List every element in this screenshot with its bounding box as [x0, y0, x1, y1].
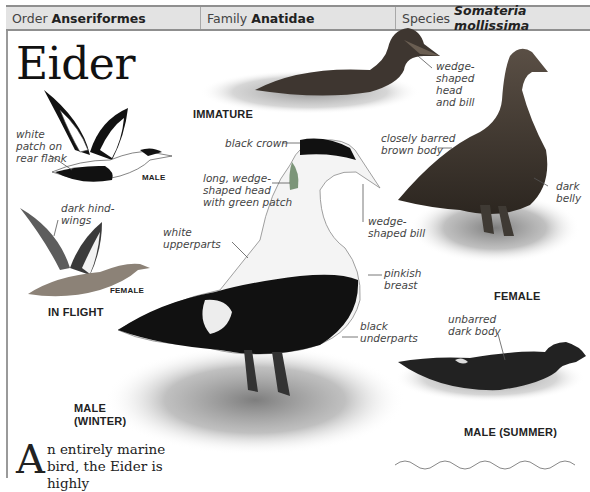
annotation-pinkish-breast: pinkish breast — [384, 267, 421, 291]
flying-female-label: FEMALE — [110, 286, 144, 295]
annotation-line: wings — [61, 214, 115, 226]
annotation-line: shaped — [436, 72, 475, 84]
drop-cap: A — [16, 442, 45, 476]
annotation-white-patch: white patch on rear flank — [16, 128, 67, 164]
annotation-line: long, wedge- — [203, 172, 292, 184]
annotation-line: belly — [556, 192, 581, 204]
annotation-black-crown: black crown — [225, 137, 288, 149]
in-flight-caption: IN FLIGHT — [48, 306, 104, 318]
annotation-line: wedge- — [368, 215, 425, 227]
flying-male-label: MALE — [142, 173, 165, 182]
annotation-line: upperparts — [163, 238, 221, 250]
immature-eider-figure — [200, 28, 440, 114]
annotation-line: black — [360, 320, 418, 332]
annotation-line: dark hind- — [61, 202, 115, 214]
annotation-line: shaped bill — [368, 227, 425, 239]
male-winter-caption-2: (WINTER) — [74, 415, 126, 427]
annotation-line: brown body — [381, 144, 455, 156]
annotation-line: head — [436, 84, 475, 96]
annotation-line: pinkish — [384, 267, 421, 279]
annotation-line: unbarred — [448, 313, 501, 325]
annotation-line: underparts — [360, 332, 418, 344]
annotation-line: wedge- — [436, 60, 475, 72]
annotation-line: shaped head — [203, 184, 292, 196]
annotation-line: white — [163, 226, 221, 238]
annotation-black-underparts: black underparts — [360, 320, 418, 344]
annotation-line: closely barred — [381, 132, 455, 144]
annotation-wedge-bill: wedge- shaped bill — [368, 215, 425, 239]
annotation-long-wedge-head: long, wedge- shaped head with green patc… — [203, 172, 292, 208]
annotation-unbarred-body: unbarred dark body — [448, 313, 501, 337]
annotation-white-upperparts: white upperparts — [163, 226, 221, 250]
annotation-line: patch on — [16, 140, 67, 152]
annotation-line: dark — [556, 180, 581, 192]
annotation-line: with green patch — [203, 196, 292, 208]
annotation-dark-belly: dark belly — [556, 180, 581, 204]
annotation-line: breast — [384, 279, 421, 291]
annotation-line: rear flank — [16, 152, 67, 164]
male-summer-figure — [395, 342, 586, 402]
annotation-line: white — [16, 128, 67, 140]
annotation-barred-body: closely barred brown body — [381, 132, 455, 156]
annotation-dark-hindwings: dark hind- wings — [61, 202, 115, 226]
immature-caption: IMMATURE — [193, 108, 253, 120]
female-caption: FEMALE — [494, 290, 540, 302]
annotation-line: and bill — [436, 96, 475, 108]
male-summer-caption: MALE (SUMMER) — [464, 426, 557, 438]
intro-paragraph: A n entirely marine bird, the Eider is h… — [16, 441, 178, 492]
wave-divider — [395, 461, 575, 469]
male-winter-caption-1: MALE — [74, 402, 106, 414]
annotation-line: dark body — [448, 325, 501, 337]
annotation-wedge-head: wedge- shaped head and bill — [436, 60, 475, 108]
